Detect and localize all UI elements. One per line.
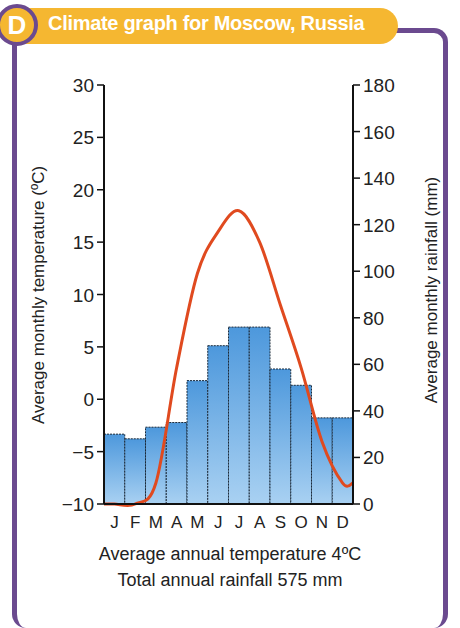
svg-text:M: M [190, 513, 204, 532]
svg-text:S: S [275, 513, 286, 532]
rainfall-bar [291, 385, 312, 504]
svg-text:160: 160 [363, 122, 395, 143]
annual-temperature-note: Average annual temperature 4ºC [0, 544, 460, 565]
rainfall-bar [270, 369, 291, 504]
svg-text:M: M [149, 513, 163, 532]
svg-text:140: 140 [363, 168, 395, 189]
svg-text:30: 30 [73, 75, 94, 96]
rainfall-bar [249, 327, 270, 504]
svg-text:10: 10 [73, 285, 94, 306]
svg-text:120: 120 [363, 215, 395, 236]
svg-text:25: 25 [73, 127, 94, 148]
svg-text:0: 0 [83, 389, 94, 410]
svg-text:A: A [254, 513, 266, 532]
svg-text:80: 80 [363, 308, 384, 329]
svg-text:5: 5 [83, 337, 94, 358]
svg-text:40: 40 [363, 401, 384, 422]
svg-text:20: 20 [363, 447, 384, 468]
svg-text:0: 0 [363, 494, 374, 515]
svg-text:O: O [295, 513, 308, 532]
rainfall-bar [187, 381, 208, 504]
svg-text:J: J [235, 513, 244, 532]
svg-text:60: 60 [363, 354, 384, 375]
annual-rainfall-note: Total annual rainfall 575 mm [0, 570, 460, 591]
svg-text:15: 15 [73, 232, 94, 253]
rainfall-bar [208, 346, 229, 504]
svg-text:20: 20 [73, 180, 94, 201]
svg-text:180: 180 [363, 75, 395, 96]
svg-text:−5: −5 [72, 442, 94, 463]
svg-text:A: A [171, 513, 183, 532]
svg-text:F: F [130, 513, 140, 532]
svg-text:N: N [316, 513, 328, 532]
rainfall-bar [166, 423, 187, 504]
svg-text:J: J [214, 513, 223, 532]
rainfall-bar [229, 327, 250, 504]
rainfall-bar [146, 427, 167, 504]
rainfall-bar [104, 434, 125, 504]
svg-text:−10: −10 [62, 494, 94, 515]
svg-text:Average monthly temperature (º: Average monthly temperature (ºC) [29, 166, 48, 424]
svg-text:D: D [336, 513, 348, 532]
svg-text:J: J [110, 513, 119, 532]
rainfall-bar [332, 418, 353, 504]
rainfall-bar [125, 439, 146, 504]
svg-text:100: 100 [363, 261, 395, 282]
svg-text:Average monthly rainfall (mm): Average monthly rainfall (mm) [422, 177, 441, 403]
